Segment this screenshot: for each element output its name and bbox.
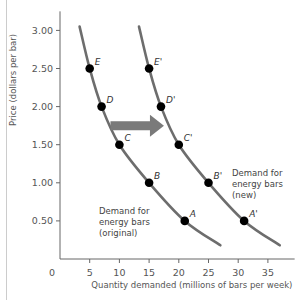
- point-d: [97, 102, 106, 111]
- y-tick-label: 1.50: [32, 139, 53, 150]
- right-arrow-icon: [110, 115, 163, 137]
- point-a-prime: [240, 217, 249, 226]
- original-demand-label: energy bars: [99, 217, 150, 227]
- y-tick-label: 2.50: [32, 63, 53, 74]
- x-tick-label: 35: [262, 267, 274, 278]
- y-tick-label: 3.00: [32, 25, 53, 36]
- x-tick-label: 15: [143, 267, 155, 278]
- point-e: [85, 64, 94, 73]
- axes: 0.501.001.502.002.503.0051015202530350Qu…: [8, 11, 295, 290]
- point-c: [115, 140, 124, 149]
- point-label: B': [214, 171, 223, 181]
- x-tick-label: 25: [202, 267, 214, 278]
- x-axis-title: Quantity demanded (millions of bars per …: [91, 280, 292, 290]
- point-b: [145, 179, 154, 188]
- point-label: C': [184, 133, 193, 143]
- point-a: [180, 217, 189, 226]
- point-label: B: [154, 171, 160, 181]
- y-tick-label: 0.50: [32, 215, 53, 226]
- point-label: C: [124, 133, 131, 143]
- point-label: D: [107, 95, 114, 105]
- y-tick-label: 1.00: [32, 177, 53, 188]
- x-tick-label: 20: [173, 267, 185, 278]
- y-axis-title: Price (dollars per bar): [8, 34, 18, 126]
- shift-arrow: [110, 115, 163, 137]
- point-label: E: [95, 57, 101, 67]
- point-label: D': [166, 95, 175, 105]
- origin-label: 0: [49, 267, 55, 278]
- new-demand-label: (new): [232, 190, 256, 200]
- point-label: E': [154, 57, 162, 67]
- x-tick-label: 10: [113, 267, 125, 278]
- point-label: A': [248, 209, 258, 219]
- x-tick-label: 30: [232, 267, 244, 278]
- point-label: A: [189, 209, 196, 219]
- point-d-prime: [157, 102, 166, 111]
- original-demand-label: Demand for: [99, 206, 150, 216]
- new-demand-label: energy bars: [232, 179, 283, 189]
- point-e-prime: [145, 64, 154, 73]
- new-demand-label: Demand for: [232, 168, 283, 178]
- y-tick-label: 2.00: [32, 101, 53, 112]
- demand-shift-chart: 0.501.001.502.002.503.0051015202530350Qu…: [0, 0, 306, 300]
- point-c-prime: [175, 140, 184, 149]
- original-demand-label: (original): [99, 228, 137, 238]
- x-tick-label: 5: [87, 267, 93, 278]
- point-b-prime: [204, 179, 213, 188]
